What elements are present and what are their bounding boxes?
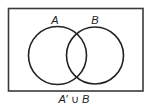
caption-set-a: A [58, 93, 66, 105]
caption-set-b: B [82, 93, 89, 105]
venn-diagram: A B A′ ∪ B [0, 0, 152, 106]
set-b-circle [67, 27, 124, 84]
set-a-label: A [50, 14, 58, 26]
venn-svg: A B A′ ∪ B [0, 0, 152, 106]
diagram-caption: A′ ∪ B [58, 93, 90, 105]
caption-union-operator: ∪ [68, 93, 82, 105]
set-b-label: B [91, 14, 98, 26]
set-a-circle [29, 27, 87, 85]
